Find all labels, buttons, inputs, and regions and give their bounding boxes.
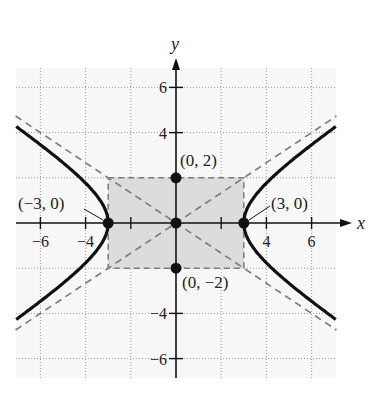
y-axis-arrow-icon: [172, 58, 180, 70]
label-neg3-0: (−3, 0): [18, 194, 64, 213]
x-tick-label: 4: [262, 233, 270, 250]
y-tick-label: −4: [150, 305, 167, 322]
x-axis-label: x: [356, 213, 365, 233]
hyperbola-plot: xy−6−44664−4−6 (0, 2)(0, −2)(−3, 0)(3, 0…: [0, 0, 384, 396]
y-tick-label: 6: [159, 79, 167, 96]
x-tick-label: −4: [77, 233, 94, 250]
y-tick-label: −6: [150, 351, 167, 368]
y-tick-label: 4: [159, 125, 167, 142]
label-3-0: (3, 0): [271, 194, 308, 213]
y-axis-label: y: [169, 34, 179, 54]
label-0-2: (0, 2): [180, 151, 217, 170]
label-0-neg2: (0, −2): [182, 273, 228, 292]
point-marker: [171, 218, 182, 229]
point-marker: [103, 218, 114, 229]
x-tick-label: 6: [308, 233, 316, 250]
point-marker: [171, 263, 182, 274]
x-tick-label: −6: [32, 233, 49, 250]
point-marker: [171, 172, 182, 183]
point-marker: [238, 218, 249, 229]
x-axis-arrow-icon: [340, 219, 352, 227]
